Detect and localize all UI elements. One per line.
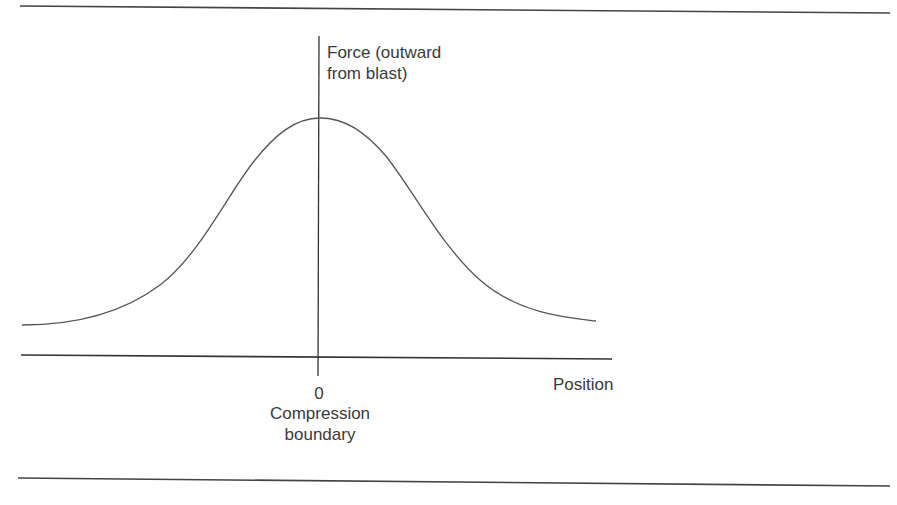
y-axis-label-line2: from blast) — [327, 63, 441, 84]
x-axis-label: Position — [553, 374, 613, 395]
boundary-label-line1: Compression — [250, 403, 390, 424]
y-axis-label: Force (outward from blast) — [327, 42, 441, 84]
origin-tick-label: 0 — [300, 383, 338, 404]
force-curve — [22, 118, 596, 325]
boundary-label-line2: boundary — [250, 424, 390, 445]
compression-boundary-label: Compression boundary — [250, 403, 390, 445]
x-axis — [21, 355, 612, 359]
figure-canvas — [0, 0, 897, 505]
bottom-rule — [18, 478, 890, 486]
top-rule — [20, 6, 890, 13]
y-axis — [318, 36, 319, 376]
y-axis-label-line1: Force (outward — [327, 42, 441, 63]
